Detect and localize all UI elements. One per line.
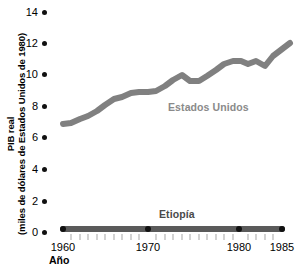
x-axis-title: Año xyxy=(49,255,69,266)
x-tick-label-1970: 1970 xyxy=(128,241,168,253)
x-axis-minor-ticks xyxy=(71,234,273,240)
chart-container: PIB real (miles de dólares de Estados Un… xyxy=(0,0,304,268)
x-tick-dot-1985 xyxy=(279,226,285,232)
series-label-estados-unidos: Estados Unidos xyxy=(168,101,249,113)
series-label-etiopia: Etiopía xyxy=(159,208,195,220)
x-tick-label-1985: 1985 xyxy=(262,241,302,253)
x-tick-dot-1960 xyxy=(60,226,66,232)
x-tick-label-1960: 1960 xyxy=(43,241,83,253)
x-tick-dot-1970 xyxy=(145,226,151,232)
x-tick-dot-1980 xyxy=(236,226,242,232)
plot-area xyxy=(0,0,304,268)
x-tick-label-1980: 1980 xyxy=(219,241,259,253)
